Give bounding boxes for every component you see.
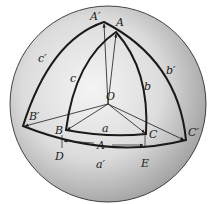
label-a-prime: a′: [96, 158, 106, 171]
label-C: C: [149, 128, 158, 141]
label-D: D: [54, 150, 64, 163]
label-b-prime: b′: [166, 64, 176, 77]
label-B-prime: B′: [28, 110, 40, 123]
label-a: a: [102, 122, 109, 135]
label-E: E: [140, 157, 149, 170]
label-b: b: [144, 80, 151, 93]
label-A-prime: A′: [89, 10, 101, 23]
label-c: c: [70, 72, 76, 85]
label-C-prime: C′: [188, 126, 199, 139]
label-O: O: [106, 90, 115, 103]
label-c-prime: c′: [38, 52, 47, 65]
label-B: B: [54, 124, 63, 137]
label-A-measure: A: [96, 139, 105, 152]
label-A: A: [115, 16, 124, 29]
spherical-triangle-diagram: O A A′ B B′ C C′ a b c a′ b′ c′ D E A: [0, 0, 216, 204]
